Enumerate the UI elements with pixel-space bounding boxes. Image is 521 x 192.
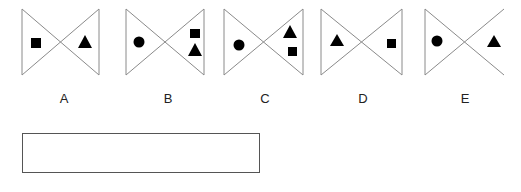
triangle-shape bbox=[330, 34, 344, 46]
circle-shape bbox=[432, 36, 443, 47]
bowtie-a bbox=[0, 0, 110, 85]
square-shape bbox=[387, 39, 396, 48]
circle-shape bbox=[134, 37, 145, 48]
square-shape bbox=[288, 47, 297, 56]
bowtie-e bbox=[411, 0, 521, 85]
triangle-shape bbox=[78, 35, 92, 48]
square-shape bbox=[31, 38, 41, 48]
label-e: E bbox=[455, 91, 475, 106]
figure-b bbox=[104, 0, 204, 85]
triangle-shape bbox=[283, 25, 297, 38]
label-b: B bbox=[158, 91, 178, 106]
square-shape bbox=[190, 29, 200, 38]
bowtie-d bbox=[305, 0, 415, 85]
figure-d bbox=[305, 0, 405, 85]
circle-shape bbox=[234, 40, 245, 51]
label-d: D bbox=[353, 91, 373, 106]
triangle-shape bbox=[487, 35, 501, 47]
figure-e bbox=[411, 0, 511, 85]
figure-a bbox=[0, 0, 100, 85]
bowtie-b bbox=[104, 0, 214, 85]
triangle-shape bbox=[188, 43, 202, 56]
answer-box[interactable] bbox=[22, 133, 260, 173]
label-a: A bbox=[54, 91, 74, 106]
figure-c bbox=[204, 0, 304, 85]
label-c: C bbox=[255, 91, 275, 106]
bowtie-c bbox=[204, 0, 314, 85]
